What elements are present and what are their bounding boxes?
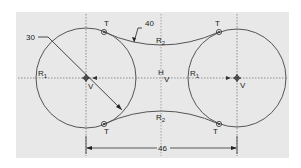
sketch-background bbox=[16, 12, 289, 158]
sketch-canvas: T T T T V V H V R1 R1 R2 R2 30 40 46 bbox=[0, 0, 301, 168]
radius-dimension-value[interactable]: 30 bbox=[26, 33, 35, 42]
tangent-label-bottom-left: T bbox=[104, 127, 109, 136]
distance-dimension-value[interactable]: 46 bbox=[158, 144, 167, 153]
vertical-constraint-left: V bbox=[88, 82, 94, 91]
tangent-label-top-left: T bbox=[104, 19, 109, 28]
tangent-label-top-right: T bbox=[215, 19, 220, 28]
vertical-constraint-middle: V bbox=[164, 75, 170, 84]
vertical-constraint-right: V bbox=[240, 81, 246, 90]
arc-dimension-value[interactable]: 40 bbox=[145, 19, 154, 28]
tangent-label-bottom-right: T bbox=[213, 127, 218, 136]
